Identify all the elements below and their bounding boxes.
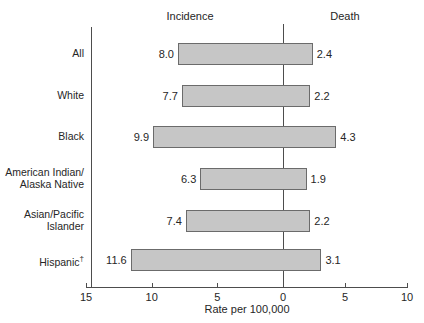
x-tick-5-2 [217,283,218,288]
row-label-4: Asian/Pacific Islander [0,208,84,232]
column-header-death: Death [315,10,375,23]
value-incidence-3: 6.3 [156,173,196,186]
x-tick-10-5 [407,283,408,288]
row-label-1: White [0,89,84,101]
row-label-2: Black [0,130,84,142]
value-death-5: 3.1 [325,254,365,267]
value-incidence-1: 7.7 [138,90,178,103]
bar-row-1 [182,85,310,107]
value-incidence-0: 8.0 [134,48,174,61]
x-tick-15-0 [86,283,87,288]
bar-row-0 [178,43,313,65]
value-death-0: 2.4 [317,48,357,61]
chart-container: Incidence Death 151050510 Rate per 100,0… [0,0,424,323]
bar-row-5 [131,249,322,271]
x-axis-title: Rate per 100,000 [86,303,408,316]
x-tick-0-3 [283,283,284,288]
value-death-1: 2.2 [314,90,354,103]
row-label-0: All [0,47,84,59]
x-axis-line [86,287,408,288]
column-header-incidence: Incidence [155,10,225,23]
value-incidence-2: 9.9 [109,131,149,144]
value-death-4: 2.2 [314,215,354,228]
bar-row-2 [153,126,336,148]
value-death-3: 1.9 [311,173,351,186]
y-axis-line [91,27,92,288]
row-label-3: American Indian/ Alaska Native [0,166,84,190]
x-tick-5-4 [345,283,346,288]
x-tick-10-1 [152,283,153,288]
value-incidence-5: 11.6 [87,254,127,267]
row-label-5: Hispanic† [0,253,84,268]
value-death-2: 4.3 [340,131,380,144]
bar-row-4 [186,210,310,232]
value-incidence-4: 7.4 [142,215,182,228]
bar-row-3 [200,168,306,190]
